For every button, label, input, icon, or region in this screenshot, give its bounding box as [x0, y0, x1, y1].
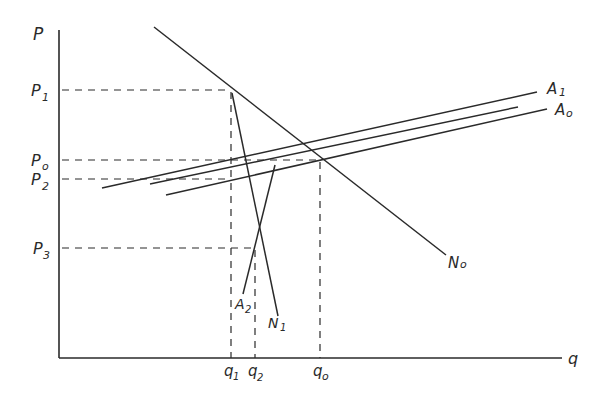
- svg-text:N: N: [448, 254, 459, 272]
- supply-curve-a1: [102, 92, 537, 188]
- svg-text:P: P: [31, 151, 41, 170]
- svg-text:A: A: [546, 80, 557, 98]
- svg-text:3: 3: [43, 249, 50, 262]
- svg-text:A: A: [234, 296, 245, 312]
- svg-text:2: 2: [257, 372, 263, 383]
- svg-text:P: P: [31, 170, 41, 189]
- svg-text:2: 2: [42, 180, 49, 193]
- svg-text:2: 2: [245, 304, 251, 315]
- svg-text:P: P: [31, 81, 41, 100]
- svg-text:1: 1: [233, 371, 239, 382]
- svg-text:N: N: [268, 315, 279, 331]
- svg-text:P: P: [33, 239, 43, 258]
- svg-text:o: o: [322, 370, 329, 383]
- price-label-p1: P 1: [31, 81, 49, 104]
- x-axis-label: q: [568, 349, 578, 368]
- quantity-label-q1: q 1: [224, 362, 239, 382]
- supply-curve-middle: [150, 107, 518, 184]
- svg-text:1: 1: [280, 322, 286, 333]
- curve-label-a0: A o: [554, 101, 573, 120]
- supply-demand-diagram: P q P 1 P o P 2 P 3 q 1 q 2 q o N o A 1 …: [0, 0, 598, 395]
- quantity-label-q0: q o: [313, 362, 329, 383]
- svg-text:1: 1: [42, 91, 49, 104]
- curve-label-a2: A 2: [234, 296, 251, 315]
- y-axis-label: P: [33, 24, 44, 44]
- svg-text:o: o: [566, 107, 573, 120]
- svg-text:o: o: [460, 258, 467, 271]
- curve-label-a1: A 1: [546, 80, 566, 99]
- curve-label-n0: N o: [448, 254, 467, 272]
- svg-text:A: A: [554, 101, 565, 119]
- svg-text:o: o: [42, 160, 49, 173]
- curve-label-n1: N 1: [268, 315, 286, 333]
- supply-curve-a0: [166, 109, 547, 195]
- quantity-label-q2: q 2: [248, 362, 263, 383]
- price-label-p3: P 3: [33, 239, 50, 262]
- svg-text:1: 1: [559, 86, 566, 99]
- price-label-p2: P 2: [31, 170, 49, 193]
